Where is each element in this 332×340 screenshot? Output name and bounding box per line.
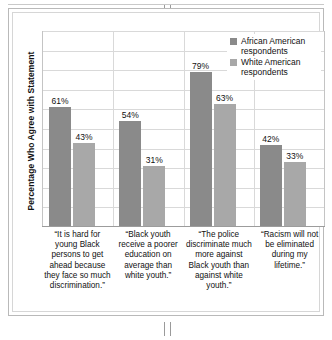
legend-item-label: African American respondents — [241, 36, 319, 56]
bar-value-label: 42% — [262, 134, 279, 144]
bar-group: 54%31% — [113, 31, 183, 227]
bar[interactable]: 79% — [190, 72, 212, 227]
x-axis-category-label: “Black youth receive a poorer education … — [113, 230, 184, 322]
bar-rect — [119, 121, 141, 227]
bar-rect — [214, 104, 236, 227]
bar-value-label: 63% — [216, 93, 233, 103]
bar-rect — [49, 107, 71, 227]
chart-legend: African American respondentsWhite Americ… — [227, 34, 321, 80]
legend-color-swatch — [230, 59, 237, 66]
legend-color-swatch — [230, 38, 237, 45]
bar-rect — [73, 143, 95, 227]
chart-figure-frame: Percentage Who Agree with Statement 61%4… — [8, 8, 324, 316]
plot-area: 61%43%54%31%79%63%42%33% African America… — [42, 31, 325, 227]
bar-value-label: 31% — [146, 155, 163, 165]
bar-value-label: 61% — [51, 96, 68, 106]
bar[interactable]: 33% — [284, 162, 306, 227]
x-axis-category-label: “The police discriminate much more again… — [184, 230, 255, 322]
bar[interactable]: 63% — [214, 104, 236, 227]
bar-value-label: 43% — [75, 132, 92, 142]
bar[interactable]: 61% — [49, 107, 71, 227]
y-axis-title-text: Percentage Who Agree with Statement — [26, 51, 36, 210]
legend-item-label: White American respondents — [241, 57, 319, 77]
x-axis-labels: “It is hard for young Black persons to g… — [42, 230, 325, 322]
bar-rect — [190, 72, 212, 227]
bar[interactable]: 42% — [260, 145, 282, 227]
bar[interactable]: 31% — [143, 166, 165, 227]
bar-rect — [284, 162, 306, 227]
bar-rect — [143, 166, 165, 227]
x-axis-category-label: “It is hard for young Black persons to g… — [42, 230, 113, 322]
bar-value-label: 33% — [286, 151, 303, 161]
bar-value-label: 79% — [192, 61, 209, 71]
legend-item[interactable]: African American respondents — [230, 36, 319, 56]
bar[interactable]: 54% — [119, 121, 141, 227]
x-axis-category-label: “Racism will not be eliminated during my… — [254, 230, 325, 322]
figure-top-edge — [8, 4, 324, 5]
bar[interactable]: 43% — [73, 143, 95, 227]
figure-bottom-tick-mark — [164, 322, 171, 336]
x-axis-baseline — [42, 226, 325, 227]
y-axis-title: Percentage Who Agree with Statement — [23, 33, 39, 229]
bar-value-label: 54% — [122, 110, 139, 120]
legend-item[interactable]: White American respondents — [230, 57, 319, 77]
bar-rect — [260, 145, 282, 227]
bar-group: 61%43% — [43, 31, 113, 227]
